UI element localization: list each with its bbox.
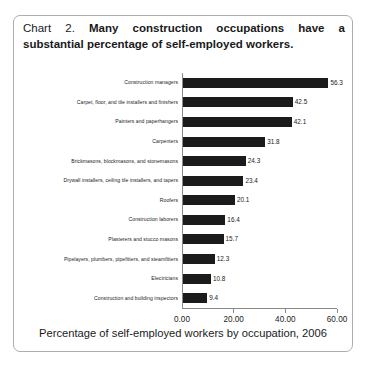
bar-value-label: 23.4 — [245, 176, 257, 186]
x-axis-tick-label: 60.00 — [327, 314, 348, 325]
x-axis-tick — [337, 309, 338, 313]
chart-title-line-1: Chart 2. Many construction occupations h… — [23, 21, 345, 37]
bar-value-label: 42.5 — [295, 97, 307, 107]
plot-area: 56.342.542.131.824.323.420.116.415.712.3… — [182, 73, 337, 308]
bar-value-label: 15.7 — [226, 234, 238, 244]
bar — [183, 156, 246, 166]
category-label: Pipelayers, plumbers, pipefitters, and s… — [18, 256, 178, 263]
category-label: Electricians — [18, 275, 178, 282]
bar — [183, 254, 215, 264]
bar-value-label: 56.3 — [330, 78, 342, 88]
chart-title-text-1: Many construction occupations have a — [89, 22, 345, 34]
category-axis-labels: Construction managersCarpet, floor, and … — [14, 73, 181, 308]
bar — [183, 274, 211, 284]
chart-title: Chart 2. Many construction occupations h… — [23, 21, 345, 52]
category-label: Plasterers and stucco masons — [18, 236, 178, 243]
x-axis-tick — [233, 309, 234, 313]
bar-value-label: 9.4 — [209, 293, 218, 303]
x-axis-tick-label: 40.00 — [275, 314, 296, 325]
bar-value-label: 42.1 — [294, 117, 306, 127]
bar-value-label: 20.1 — [237, 195, 249, 205]
category-label: Roofers — [18, 197, 178, 204]
x-axis-tick-label: 0.00 — [174, 314, 190, 325]
bar-value-label: 10.8 — [213, 274, 225, 284]
category-label: Painters and paperhangers — [18, 118, 178, 125]
bar-value-label: 12.3 — [217, 254, 229, 264]
chart-caption: Percentage of self-employed workers by o… — [14, 326, 352, 341]
chart-number: Chart 2. — [23, 22, 75, 34]
category-label: Construction laborers — [18, 216, 178, 223]
category-label: Brickmasons, blockmasons, and stonemason… — [18, 158, 178, 165]
bar — [183, 117, 292, 127]
x-axis — [182, 308, 337, 313]
category-label: Construction and building inspectors — [18, 295, 178, 302]
bar — [183, 215, 225, 225]
bar — [183, 97, 293, 107]
bar-value-label: 31.8 — [267, 137, 279, 147]
bar-value-label: 24.3 — [248, 156, 260, 166]
bar — [183, 293, 207, 303]
category-label: Carpet, floor, and tile installers and f… — [18, 99, 178, 106]
plot-wrapper: Construction managersCarpet, floor, and … — [14, 73, 352, 325]
category-label: Construction managers — [18, 79, 178, 86]
chart-figure: Chart 2. Many construction occupations h… — [13, 15, 353, 352]
bar-value-label: 16.4 — [227, 215, 239, 225]
chart-title-text-2: substantial percentage of self-employed … — [23, 37, 345, 53]
bar — [183, 234, 224, 244]
x-axis-tick — [285, 309, 286, 313]
bar — [183, 137, 265, 147]
bar — [183, 176, 243, 186]
category-label: Drywall installers, ceiling tile install… — [18, 177, 178, 184]
bar — [183, 195, 235, 205]
bar — [183, 78, 328, 88]
category-label: Carpenters — [18, 138, 178, 145]
x-axis-tick-label: 20.00 — [223, 314, 244, 325]
